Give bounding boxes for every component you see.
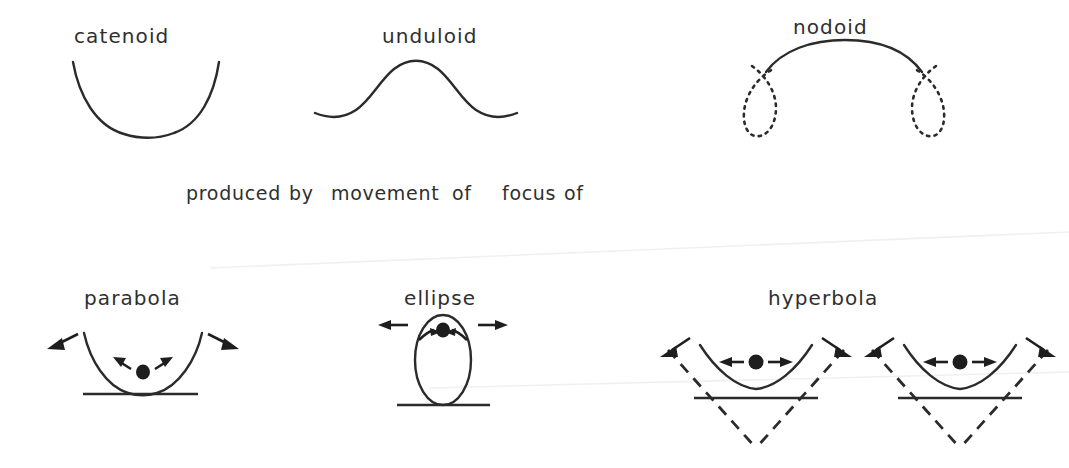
parabola-label: parabola	[84, 286, 181, 310]
unduloid-curve	[315, 61, 517, 117]
figure-canvas: catenoid unduloid nodoid produced by mov…	[0, 0, 1069, 468]
caption-word-of-1: of	[452, 182, 472, 204]
nodoid-arc	[766, 40, 922, 72]
nodoid-left-loop	[744, 66, 776, 136]
hyperbola-left-focus-dot	[749, 355, 764, 370]
caption-word-movement: movement	[331, 182, 439, 204]
hyperbola-label: hyperbola	[768, 286, 878, 310]
parabola-focus-dot	[136, 365, 150, 380]
ellipse-focus-dot	[436, 323, 450, 338]
hyperbola-left-outer-arrows	[660, 338, 852, 357]
parabola-curve	[84, 333, 202, 395]
nodoid-right-loop	[912, 66, 944, 136]
catenoid-label: catenoid	[74, 24, 169, 48]
caption-word-produced: produced	[186, 182, 281, 204]
hyperbola-right-branch	[864, 338, 1056, 448]
parabola-outer-arrows	[47, 334, 239, 350]
hyperbola-group: hyperbola	[660, 286, 1056, 448]
caption-word-of-2: of	[564, 182, 584, 204]
scan-crease-artifact	[210, 232, 1069, 268]
nodoid-group: nodoid	[744, 15, 944, 136]
unduloid-label: unduloid	[382, 24, 478, 48]
caption-line: produced by movement of focus of	[186, 182, 584, 204]
caption-word-focus: focus	[502, 182, 556, 204]
caption-word-by: by	[289, 182, 314, 204]
hyperbola-right-outer-arrows	[864, 338, 1056, 357]
catenoid-group: catenoid	[73, 24, 219, 138]
catenoid-curve	[73, 62, 219, 138]
hyperbola-left-branch	[660, 338, 852, 448]
nodoid-label: nodoid	[793, 15, 868, 39]
delaunay-surfaces-figure: catenoid unduloid nodoid produced by mov…	[0, 0, 1069, 468]
parabola-group: parabola	[47, 286, 239, 395]
ellipse-label: ellipse	[404, 286, 476, 310]
unduloid-group: unduloid	[315, 24, 517, 117]
hyperbola-right-focus-dot	[953, 355, 968, 370]
